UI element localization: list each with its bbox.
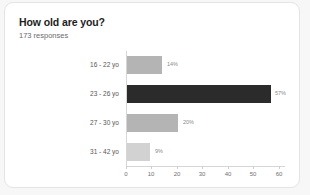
bar[interactable] [127, 114, 178, 132]
bar-row: 27 - 30 yo 20% [5, 109, 301, 138]
x-axis-tick [151, 166, 152, 169]
x-axis-tick [126, 166, 127, 169]
x-axis-tick-label: 50 [250, 171, 257, 177]
category-label: 16 - 22 yo [90, 61, 119, 68]
bar[interactable] [127, 143, 150, 161]
x-axis-tick-label: 20 [174, 171, 181, 177]
bar-value-label: 20% [183, 119, 194, 125]
x-axis-tick-label: 40 [225, 171, 232, 177]
bar-value-label: 14% [167, 61, 178, 67]
bar-value-label: 57% [275, 90, 286, 96]
bar-value-label: 9% [155, 148, 163, 154]
category-label: 31 - 42 yo [90, 148, 119, 155]
bar-row: 31 - 42 yo 9% [5, 138, 301, 167]
bar[interactable] [127, 85, 271, 103]
x-axis-tick-label: 60 [276, 171, 283, 177]
x-axis-tick [279, 166, 280, 169]
bar-row: 23 - 26 yo 57% [5, 80, 301, 109]
x-axis-tick-label: 10 [148, 171, 155, 177]
x-axis-tick [202, 166, 203, 169]
x-axis-tick [253, 166, 254, 169]
bar-row: 16 - 22 yo 14% [5, 51, 301, 80]
category-label: 23 - 26 yo [90, 90, 119, 97]
x-axis-tick [177, 166, 178, 169]
bar-chart-plot: 16 - 22 yo 14% 23 - 26 yo 57% 27 - 30 yo… [5, 3, 301, 189]
x-axis-tick-label: 0 [124, 171, 127, 177]
x-axis-tick-label: 30 [199, 171, 206, 177]
x-axis-tick [228, 166, 229, 169]
bar[interactable] [127, 56, 162, 74]
survey-result-card: How old are you? 173 responses 16 - 22 y… [4, 2, 300, 188]
category-label: 27 - 30 yo [90, 119, 119, 126]
